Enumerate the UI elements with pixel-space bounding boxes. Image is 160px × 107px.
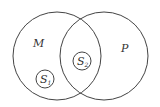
set-p-label: P: [120, 42, 129, 55]
subset-s2-label: S2: [77, 55, 89, 68]
subset-s1-label: S1: [40, 73, 51, 86]
set-m-circle: [13, 12, 101, 100]
set-p-circle: [60, 12, 148, 100]
venn-diagram: M P S1 S2: [0, 0, 160, 107]
set-m-label: M: [32, 37, 45, 50]
